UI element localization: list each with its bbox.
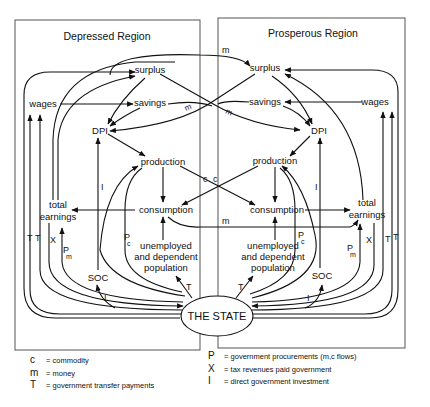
legend-item: I = direct government investment [208, 375, 356, 388]
right-flow-I-soc: I [307, 293, 310, 303]
legend-symbol: I [208, 375, 222, 387]
legend-item: m = money [30, 367, 154, 380]
left-unemployed-line3: population [144, 262, 188, 273]
left-flow-I-dpi: I [101, 182, 104, 192]
left-soc: SOC [88, 272, 109, 283]
left-dpi: DPI [92, 125, 108, 136]
right-total-earnings-line2: earnings [349, 209, 386, 220]
left-consumption: consumption [139, 204, 193, 215]
left-flow-c: c [203, 174, 208, 184]
right-production: production [253, 155, 297, 166]
prosperous-region-title: Prosperous Region [268, 27, 358, 39]
regional-flow-diagram: Depressed Region Prosperous Region [0, 0, 430, 407]
left-flow-Pm-sub: m [66, 253, 72, 260]
left-unemployed-line1: unemployed [140, 240, 192, 251]
left-flow-T2: T [35, 233, 41, 243]
left-savings: savings [134, 97, 166, 108]
legend-text: = direct government investment [224, 377, 329, 386]
right-nodes: surplus savings DPI wages production con… [241, 62, 389, 281]
right-flow-T2: T [393, 232, 399, 242]
left-wages: wages [28, 98, 57, 109]
left-flow-I-soc: I [104, 293, 107, 303]
right-dpi: DPI [311, 125, 327, 136]
center-flow-m-surplus: m [222, 45, 230, 55]
legend-item: X = tax revenues paid government [208, 363, 356, 376]
legend-item: T = government transfer payments [30, 379, 154, 392]
left-flow-X: X [50, 235, 56, 245]
legend-item: P = government procurements (m,c flows) [208, 350, 356, 363]
right-total-earnings-line1: total [358, 197, 376, 208]
depressed-region-title: Depressed Region [64, 30, 151, 42]
right-flow-Pm-sub: m [350, 251, 356, 258]
legend-symbol: P [208, 350, 222, 362]
left-total-earnings-line1: total [49, 199, 67, 210]
right-flow-T1: T [385, 234, 391, 244]
right-flow-Pc-sub: c [301, 238, 305, 245]
right-unemployed-line2: and dependent [241, 251, 305, 262]
legend-left: c = commodity m = money T = government t… [30, 354, 154, 392]
legend-text: = government procurements (m,c flows) [224, 352, 356, 361]
right-unemployed-line3: population [251, 262, 295, 273]
right-unemployed-line1: unemployed [247, 240, 299, 251]
left-flow-T1: T [27, 233, 33, 243]
right-wages: wages [360, 96, 389, 107]
left-flow-Pc-sub: c [127, 240, 131, 247]
legend-text: = commodity [46, 356, 89, 365]
left-production: production [141, 156, 185, 167]
the-state-label: THE STATE [188, 310, 247, 322]
right-soc: SOC [312, 270, 333, 281]
left-surplus: surplus [135, 64, 166, 75]
legend-symbol: m [30, 367, 44, 379]
legend-symbol: T [30, 379, 44, 391]
legend-symbol: X [208, 363, 222, 375]
right-flow-X: X [366, 235, 372, 245]
right-flow-T-unemployed: T [238, 282, 244, 292]
left-flow-T-unemployed: T [186, 282, 192, 292]
right-flow-I-dpi: I [315, 182, 318, 192]
right-consumption: consumption [250, 204, 304, 215]
legend-right: P = government procurements (m,c flows) … [208, 350, 356, 388]
legend-item: c = commodity [30, 354, 154, 367]
right-flow-c: c [213, 174, 218, 184]
left-flow-m-savings: m [183, 102, 193, 113]
legend-text: = money [46, 369, 75, 378]
right-flow-m-savings: m [224, 107, 234, 118]
legend-symbol: c [30, 354, 44, 366]
left-nodes: surplus savings DPI wages production con… [28, 64, 198, 283]
legend-text: = tax revenues paid government [224, 365, 331, 374]
right-savings: savings [249, 96, 281, 107]
right-surplus: surplus [250, 62, 281, 73]
prosperous-region-box [218, 18, 405, 348]
legend-text: = government transfer payments [46, 381, 154, 390]
center-flow-m-consumption: m [222, 216, 230, 226]
left-unemployed-line2: and dependent [134, 251, 198, 262]
left-total-earnings-line2: earnings [40, 211, 77, 222]
